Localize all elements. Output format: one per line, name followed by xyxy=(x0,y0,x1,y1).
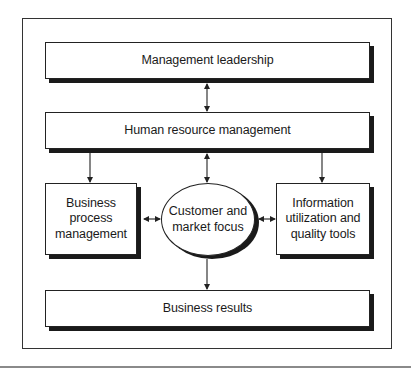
node-business-results: Business results xyxy=(45,290,370,327)
node-customer-market-focus: Customer and market focus xyxy=(161,183,255,256)
node-label: Business process management xyxy=(55,196,127,243)
node-management-leadership: Management leadership xyxy=(45,42,370,79)
node-label: Information utilization and quality tool… xyxy=(286,196,361,243)
node-label: Human resource management xyxy=(124,123,290,139)
node-business-process-management: Business process management xyxy=(45,183,137,255)
node-label: Business results xyxy=(163,301,252,317)
node-information-utilization: Information utilization and quality tool… xyxy=(276,183,370,255)
node-label: Management leadership xyxy=(141,53,273,69)
node-label: Customer and market focus xyxy=(169,204,248,235)
node-human-resource-management: Human resource management xyxy=(45,112,370,149)
bottom-divider xyxy=(0,366,411,368)
